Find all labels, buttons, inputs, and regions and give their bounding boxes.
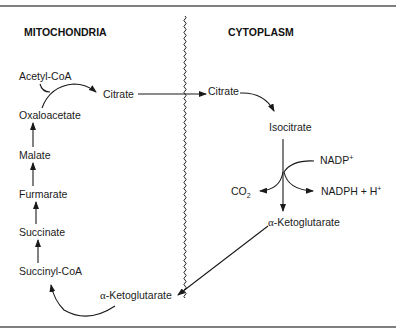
arrow-citrate-to-isocitrate (240, 93, 274, 111)
arrow-nadp-in (284, 161, 314, 172)
label-succinate: Succinate (19, 226, 65, 238)
label-citrate-mito: Citrate (103, 88, 134, 100)
label-nadph: NADPH + H+ (321, 185, 381, 197)
label-citrate-cyto: Citrate (208, 85, 239, 97)
label-co2: CO2 (231, 185, 251, 199)
label-acetyl-coa: Acetyl-CoA (19, 70, 72, 82)
label-oxaloacetate: Oxaloacetate (19, 109, 81, 121)
label-isocitrate: Isocitrate (269, 121, 312, 133)
label-nadp: NADP+ (320, 154, 353, 166)
arrow-nadph-out (284, 172, 313, 191)
label-succinyl-coa: Succinyl-CoA (19, 265, 82, 277)
arrow-oxaloacetate-to-citrate (42, 84, 96, 108)
label-akg-mito: α-Ketoglutarate (100, 289, 172, 301)
arrow-akg-transport (178, 226, 268, 295)
pathway-diagram: MITOCHONDRIA CYTOPLASM Acetyl-CoA Citrat… (0, 0, 396, 332)
cytoplasm-header: CYTOPLASM (228, 26, 294, 38)
mitochondria-header: MITOCHONDRIA (24, 26, 107, 38)
label-malate: Malate (19, 149, 51, 161)
arrow-co2-out (260, 172, 283, 191)
label-furmarate: Furmarate (19, 188, 68, 200)
label-akg-cyto: α-Ketoglutarate (268, 216, 340, 228)
arrow-acetylcoa-to-citrate (40, 84, 50, 92)
membrane-wavy-line (184, 16, 186, 298)
